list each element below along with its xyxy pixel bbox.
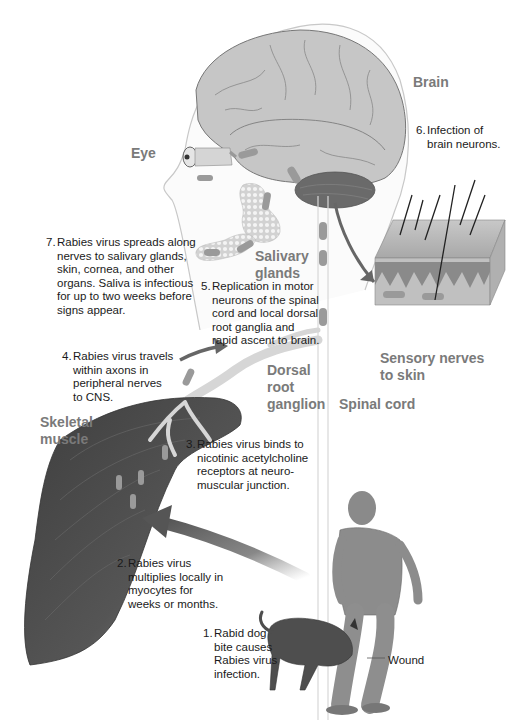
step-7-number: 7. xyxy=(46,236,56,250)
step-1-text: Rabid dog bite causes Rabies virus infec… xyxy=(203,627,303,681)
label-eye: Eye xyxy=(131,145,156,162)
step-2-number: 2. xyxy=(117,557,127,571)
step-4: 4. Rabies virus travels within axons in … xyxy=(62,350,192,404)
step-7-text: Rabies virus spreads along nerves to sal… xyxy=(46,236,206,317)
label-spinal-cord: Spinal cord xyxy=(339,396,415,413)
label-sensory-nerves: Sensory nerves to skin xyxy=(380,350,484,384)
cerebellum xyxy=(295,172,375,208)
step-1: 1. Rabid dog bite causes Rabies virus in… xyxy=(203,627,303,681)
label-wound: Wound xyxy=(388,654,424,668)
step-3: 3. Rabies virus binds to nicotinic acety… xyxy=(186,438,336,492)
label-dorsal-root-ganglion: Dorsal root ganglion xyxy=(267,362,325,413)
step-2-text: Rabies virus multiplies locally in myocy… xyxy=(117,557,247,611)
step-7: 7. Rabies virus spreads along nerves to … xyxy=(46,236,206,317)
step-3-text: Rabies virus binds to nicotinic acetylch… xyxy=(186,438,336,492)
step-6-text: Infection of brain neurons. xyxy=(416,124,516,151)
step-2: 2. Rabies virus multiplies locally in my… xyxy=(117,557,247,611)
label-salivary-glands: Salivary glands xyxy=(255,248,309,282)
step-3-number: 3. xyxy=(186,438,196,452)
step-4-text: Rabies virus travels within axons in per… xyxy=(62,350,192,404)
step-5-text: Replication in motor neurons of the spin… xyxy=(201,280,321,348)
step-6: 6. Infection of brain neurons. xyxy=(416,124,516,151)
step-4-number: 4. xyxy=(62,350,72,364)
step-1-number: 1. xyxy=(203,627,213,641)
label-brain: Brain xyxy=(413,74,449,91)
man-illustration xyxy=(326,491,418,715)
step-6-number: 6. xyxy=(416,124,426,138)
label-skeletal-muscle: Skeletal muscle xyxy=(40,414,93,448)
step-5: 5. Replication in motor neurons of the s… xyxy=(201,280,321,348)
